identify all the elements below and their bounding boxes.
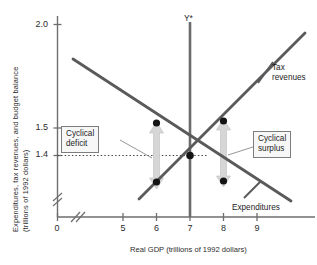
x-tick-label-0: 0	[50, 223, 64, 233]
marker-expenditures-at-6	[153, 119, 160, 126]
expenditures-label: Expenditures	[232, 203, 280, 213]
cyclical-surplus-leader-line	[228, 146, 256, 155]
tax-revenues-label-line2: revenues	[272, 73, 306, 83]
cyclical-deficit-leader-line	[120, 140, 152, 158]
marker-equilibrium	[186, 152, 194, 160]
cyclical-deficit-label-line1: Cyclical	[66, 129, 94, 139]
x-tick-label-6: 6	[150, 223, 164, 233]
tax-revenues-label: Tax revenues	[272, 63, 306, 84]
marker-tax-revenues-at-6	[153, 178, 160, 185]
tax-revenues-leader-line	[258, 62, 273, 83]
y-axis-title-line1: Expenditures, tax revenues, and budget b…	[11, 67, 20, 232]
expenditures-leader-line	[244, 181, 261, 198]
cyclical-surplus-label-line1: Cyclical	[258, 134, 286, 144]
x-axis-title: Real GDP (trillions of 1992 dollars)	[130, 245, 247, 254]
tax-revenues-label-line1: Tax	[272, 63, 306, 73]
x-tick-label-5: 5	[116, 223, 130, 233]
x-tick-label-7: 7	[183, 223, 197, 233]
y-tick-label-2-0: 2.0	[26, 19, 48, 29]
y-tick-label-1-4: 1.4	[26, 149, 48, 159]
cyclical-deficit-label-line2: deficit	[66, 139, 94, 149]
cyclical-surplus-callout: Cyclical surplus	[253, 131, 291, 158]
chart-figure: Expenditures, tax revenues, and budget b…	[0, 0, 317, 265]
cyclical-deficit-callout: Cyclical deficit	[61, 126, 99, 153]
y-tick-label-1-5: 1.5	[26, 122, 48, 132]
y-axis-title-line2: (trillions of 1992 dollars)	[21, 150, 30, 232]
cyclical-surplus-label-line2: surplus	[258, 144, 286, 154]
marker-expenditures-at-8	[220, 177, 227, 184]
marker-tax-revenues-at-8	[220, 117, 227, 124]
x-tick-label-9: 9	[250, 223, 264, 233]
x-tick-label-8: 8	[217, 223, 231, 233]
potential-gdp-label: Y*	[184, 13, 193, 23]
